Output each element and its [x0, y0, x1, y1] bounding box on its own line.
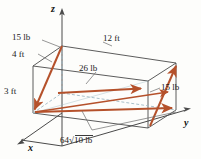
box-hidden-edges [33, 46, 176, 113]
label-force-64root10lb: 64√10 lb [60, 136, 92, 145]
radical-radicand: 10 [74, 135, 83, 145]
diagram-canvas [0, 0, 201, 159]
force-diagram-figure: 15 lb 4 ft 12 ft 3 ft 26 lb 15 lb 64√10 … [0, 0, 201, 159]
axis-label-y: y [184, 118, 188, 128]
vector-64root10lb [35, 92, 172, 112]
vector-26lb [58, 89, 141, 94]
radical-overbar [75, 135, 93, 136]
axis-label-z: z [51, 4, 55, 14]
radical-coefficient: 64 [60, 135, 69, 145]
label-force-15lb-right: 15 lb [161, 83, 179, 92]
radical-symbol-group: √10 [69, 136, 83, 145]
radical-unit: lb [85, 135, 92, 145]
label-force-26lb: 26 lb [79, 64, 97, 73]
label-dimension-4ft: 4 ft [12, 50, 24, 59]
label-dimension-3ft: 3 ft [4, 87, 16, 96]
label-dimension-12ft: 12 ft [103, 34, 120, 43]
label-force-15lb-left: 15 lb [12, 33, 30, 42]
axis-x [14, 113, 62, 150]
axis-label-x: x [28, 143, 33, 153]
